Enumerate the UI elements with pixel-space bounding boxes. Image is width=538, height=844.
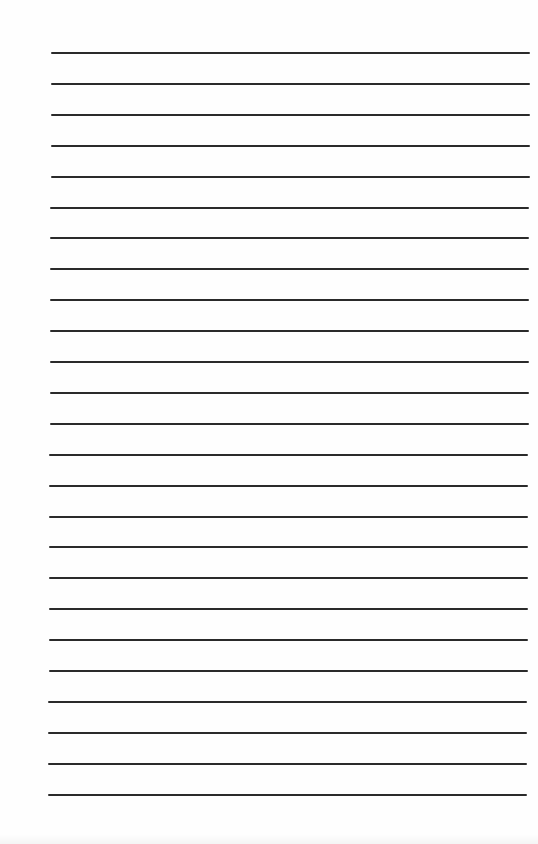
ruled-line	[50, 361, 529, 363]
ruled-line	[48, 732, 527, 734]
lined-paper-page	[0, 0, 538, 844]
ruled-line	[48, 794, 527, 796]
ruled-line	[48, 763, 527, 765]
ruled-line	[50, 237, 529, 239]
ruled-line	[49, 670, 528, 672]
ruled-line	[49, 516, 528, 518]
ruled-line	[50, 268, 529, 270]
ruled-line	[49, 454, 528, 456]
ruled-line	[51, 52, 530, 54]
ruled-line	[48, 701, 527, 703]
ruled-line	[50, 330, 529, 332]
ruled-line	[51, 83, 530, 85]
ruled-line	[50, 392, 529, 394]
page-bottom-edge	[0, 834, 538, 844]
ruled-line	[49, 546, 528, 548]
ruled-line	[49, 485, 528, 487]
ruled-line	[51, 114, 530, 116]
ruled-line	[51, 145, 530, 147]
ruled-line	[49, 608, 528, 610]
ruled-line	[50, 299, 529, 301]
ruled-line	[50, 207, 529, 209]
ruled-line	[49, 639, 528, 641]
ruled-line	[49, 577, 528, 579]
ruled-line	[51, 176, 530, 178]
ruled-line	[50, 423, 529, 425]
